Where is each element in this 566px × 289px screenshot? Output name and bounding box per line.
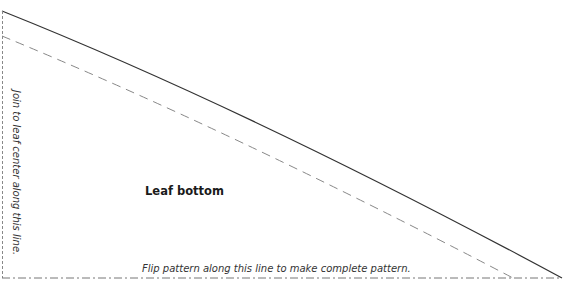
pattern-drawing [0,0,566,289]
cut-line [2,11,562,278]
flip-instruction: Flip pattern along this line to make com… [142,263,411,274]
pattern-title: Leaf bottom [145,184,224,198]
fold-instruction: Join to leaf center along this line. [11,90,22,255]
seam-allowance-line [2,36,513,278]
